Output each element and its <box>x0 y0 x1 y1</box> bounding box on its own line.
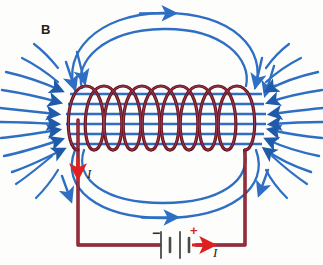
solenoid-magnetic-field-figure: B I I − + <box>0 0 323 265</box>
battery-negative-label: − <box>152 228 160 238</box>
current-label-left: I <box>87 166 91 182</box>
current-label-bottom: I <box>213 245 217 261</box>
diagram-canvas <box>0 0 323 265</box>
left-field-fan <box>0 72 62 172</box>
battery-symbol <box>161 232 189 258</box>
battery-positive-label: + <box>190 226 198 236</box>
outer-loop-arrowheads <box>140 13 174 217</box>
outer-field-loops <box>72 13 259 218</box>
right-field-fan-tails <box>266 44 307 198</box>
left-field-fan-tails <box>16 44 58 198</box>
magnetic-field-label: B <box>41 22 50 37</box>
